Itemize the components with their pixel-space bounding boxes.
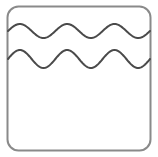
- icon-canvas: [0, 0, 158, 157]
- water-waves-icon[interactable]: [0, 0, 158, 157]
